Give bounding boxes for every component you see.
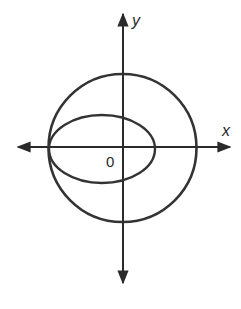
y-axis-label: y: [131, 12, 141, 29]
x-axis-label: x: [221, 122, 231, 139]
diagram-canvas: y x 0: [0, 0, 241, 309]
ellipse-curve: [49, 115, 155, 183]
origin-label: 0: [106, 153, 114, 170]
